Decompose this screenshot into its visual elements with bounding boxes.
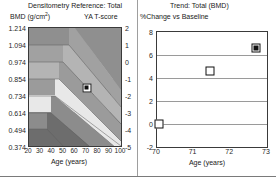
x-tick-40: 40 xyxy=(47,147,54,154)
marker-fill xyxy=(254,46,258,50)
t-tick-3: 0 xyxy=(125,59,129,66)
r-y-tick-6: 6 xyxy=(149,52,153,59)
reference-curve-overlay xyxy=(29,28,121,146)
left-secondary-y-axis: 2 1 0 -1 -2 -3 -4 -5 xyxy=(121,27,137,147)
r-y-tick-0: 0 xyxy=(149,121,153,128)
trend-point-current[interactable] xyxy=(252,44,261,53)
r-y-tick-2: 2 xyxy=(149,98,153,105)
densitometry-reference-panel: Densitometry Reference: Total BMD (g/cm2… xyxy=(0,0,138,176)
marker-outline xyxy=(154,120,163,129)
r-x-tick-70: 70 xyxy=(152,148,160,155)
left-chart-title: Densitometry Reference: Total xyxy=(28,2,122,9)
trend-point-baseline[interactable] xyxy=(154,120,163,129)
marker-fill xyxy=(84,85,88,89)
trend-point-second[interactable] xyxy=(206,67,215,76)
x-tick-50: 50 xyxy=(59,147,66,154)
report-bottom-rule xyxy=(0,176,276,177)
x-tick-80: 80 xyxy=(93,147,100,154)
y-tick-6: 0.614 xyxy=(8,110,26,117)
r-x-tick-72: 72 xyxy=(225,148,233,155)
left-y-axis-label-text: BMD (g/cm xyxy=(10,13,45,20)
t-tick-7: -4 xyxy=(125,127,131,134)
y-tick-4: 0.854 xyxy=(8,76,26,83)
densitometry-reference-plot-area[interactable] xyxy=(28,27,122,147)
left-y-axis: 1.214 1.094 0.974 0.854 0.734 0.614 0.49… xyxy=(0,27,26,147)
y-tick-2: 1.094 xyxy=(8,42,26,49)
t-tick-2: 1 xyxy=(125,42,129,49)
gridline-6 xyxy=(157,55,267,56)
y-tick-7: 0.494 xyxy=(8,127,26,134)
panel-divider xyxy=(137,0,138,176)
right-chart-title: Trend: Total (BMD) xyxy=(170,2,229,9)
y-tick-8: 0.374 xyxy=(8,144,26,151)
left-y-axis-label-close: ) xyxy=(48,13,50,20)
right-y-axis-label: %Change vs Baseline xyxy=(140,13,209,20)
x-tick-70: 70 xyxy=(82,147,89,154)
trend-plot-area[interactable] xyxy=(156,31,268,148)
gridline-2 xyxy=(157,101,267,102)
r-x-tick-73: 73 xyxy=(262,148,270,155)
t-tick-1: 2 xyxy=(125,25,129,32)
gridline-0 xyxy=(157,124,267,125)
x-tick-60: 60 xyxy=(70,147,77,154)
x-tick-90: 90 xyxy=(105,147,112,154)
x-tick-100: 100 xyxy=(115,147,126,154)
y-tick-5: 0.734 xyxy=(8,93,26,100)
r-y-tick-4: 4 xyxy=(149,75,153,82)
y-tick-1: 1.214 xyxy=(8,25,26,32)
left-secondary-axis-label: YA T-score xyxy=(84,13,118,20)
t-tick-4: -1 xyxy=(125,76,131,83)
t-tick-6: -3 xyxy=(125,110,131,117)
left-x-axis: 20 30 40 50 60 70 80 90 100 xyxy=(28,147,120,157)
x-tick-20: 20 xyxy=(24,147,31,154)
t-tick-8: -5 xyxy=(125,144,131,151)
right-y-axis: 8 6 4 2 0 -2 xyxy=(138,31,155,148)
r-x-tick-71: 71 xyxy=(189,148,197,155)
right-x-axis: 70 71 72 73 xyxy=(156,147,266,157)
patient-measurement-marker[interactable] xyxy=(82,83,91,92)
marker-outline xyxy=(206,67,215,76)
gridline-4 xyxy=(157,78,267,79)
left-y-axis-label: BMD (g/cm2) xyxy=(10,13,50,20)
y-tick-3: 0.974 xyxy=(8,59,26,66)
t-tick-5: -2 xyxy=(125,93,131,100)
right-x-axis-title: Age (years) xyxy=(138,159,276,166)
x-tick-30: 30 xyxy=(36,147,43,154)
left-x-axis-title: Age (years) xyxy=(0,158,138,165)
r-y-tick-8: 8 xyxy=(149,29,153,36)
